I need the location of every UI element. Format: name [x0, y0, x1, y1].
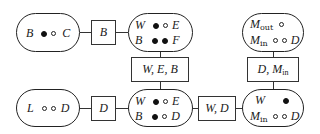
node-label-subscript: out [260, 23, 273, 32]
edge-box-d-min: D, Min [247, 57, 299, 82]
connector-bottom-2 [116, 108, 128, 109]
filled-dot-icon [153, 23, 159, 29]
edge-box-web: W, E, B [131, 57, 189, 82]
empty-dot-icon [162, 114, 167, 119]
node-we-bd: W E B D [128, 89, 193, 127]
node-label-subscript: in [260, 39, 268, 48]
edge-label: D [99, 101, 108, 116]
edge-label: B [100, 25, 107, 40]
empty-dot-icon [51, 31, 56, 36]
filled-dot-icon [162, 38, 168, 44]
filled-dot-icon [152, 114, 158, 120]
empty-dot-icon [163, 23, 168, 28]
node-mout-min-d: Mout Min D [242, 13, 304, 52]
connector-top-2 [116, 32, 128, 33]
node-label: E [172, 18, 179, 33]
node-label: B [26, 26, 33, 41]
node-label: B [135, 109, 142, 124]
filled-dot-icon [153, 99, 159, 105]
edge-box-d: D [91, 96, 116, 121]
node-label: F [172, 33, 179, 48]
empty-dot-icon [42, 106, 47, 111]
filled-dot-icon [283, 98, 289, 104]
node-label: M [250, 109, 260, 124]
edge-box-wd: W, D [198, 96, 236, 121]
empty-dot-icon [51, 106, 56, 111]
node-label-subscript: in [260, 115, 268, 124]
connector-top-1 [80, 32, 91, 33]
node-label: W [135, 18, 145, 33]
node-label: B [135, 33, 142, 48]
edge-box-b: B [91, 20, 116, 45]
empty-dot-icon [279, 22, 284, 27]
node-label: W [135, 94, 145, 109]
node-label: D [291, 109, 300, 124]
node-b-c: B C [16, 13, 80, 52]
filled-dot-icon [41, 31, 47, 37]
node-w-min-d: W Min D [242, 89, 304, 127]
empty-dot-icon [282, 38, 287, 43]
node-label: D [171, 109, 180, 124]
empty-dot-icon [273, 114, 278, 119]
connector-right-down [273, 82, 274, 89]
empty-dot-icon [282, 114, 287, 119]
node-we-bf: W E B F [128, 13, 193, 52]
edge-label: W, E, B [142, 62, 178, 77]
edge-label: D, M [258, 62, 283, 77]
node-label: D [61, 101, 70, 116]
filled-dot-icon [152, 38, 158, 44]
connector-mid-down [160, 82, 161, 89]
node-label: L [27, 101, 34, 116]
edge-label-subscript: in [282, 68, 288, 77]
empty-dot-icon [163, 99, 168, 104]
node-label: W [255, 93, 265, 108]
node-label: C [62, 26, 70, 41]
edge-label: W, D [205, 101, 229, 116]
node-label: D [291, 33, 300, 48]
empty-dot-icon [273, 38, 278, 43]
node-label: M [250, 17, 260, 32]
connector-bottom-1 [80, 108, 91, 109]
node-l-d: L D [16, 89, 80, 127]
node-label: E [172, 94, 179, 109]
node-label: M [250, 33, 260, 48]
